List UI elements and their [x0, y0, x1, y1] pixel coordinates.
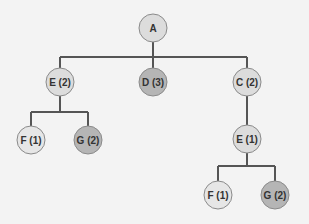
node-label: A [149, 23, 156, 34]
tree-node-f1a: F (1) [17, 126, 45, 154]
node-label: G (2) [77, 135, 100, 146]
tree-node-d3: D (3) [139, 68, 167, 96]
node-label: D (3) [142, 77, 164, 88]
node-label: E (2) [49, 77, 71, 88]
tree-diagram: AE (2)D (3)C (2)F (1)G (2)E (1)F (1)G (2… [0, 0, 309, 224]
node-label: G (2) [264, 190, 287, 201]
edges [31, 42, 275, 181]
tree-node-e1: E (1) [233, 125, 261, 153]
node-label: F (1) [207, 190, 228, 201]
tree-node-g2b: G (2) [261, 181, 289, 209]
node-label: C (2) [236, 77, 258, 88]
node-label: E (1) [236, 134, 258, 145]
tree-node-c2: C (2) [233, 68, 261, 96]
tree-node-a: A [139, 14, 167, 42]
tree-node-g2a: G (2) [74, 126, 102, 154]
tree-node-f1b: F (1) [204, 181, 232, 209]
node-label: F (1) [20, 135, 41, 146]
tree-node-e2: E (2) [46, 68, 74, 96]
